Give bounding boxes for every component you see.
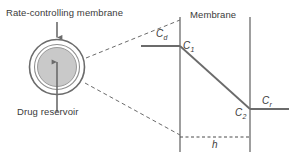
callout-line-lower	[85, 83, 180, 135]
label-drug-reservoir: Drug reservoir	[17, 107, 79, 117]
figure-canvas: Rate-controlling membrane Drug reservoir…	[0, 0, 296, 164]
label-membrane-thickness: h	[212, 140, 218, 150]
label-concentration-cr: Cr	[262, 96, 272, 106]
label-cr-symbol: C	[262, 95, 269, 106]
label-cr-subscript: r	[270, 101, 272, 108]
label-concentration-c2: C2	[235, 108, 246, 118]
label-c2-symbol: C	[235, 107, 242, 118]
label-concentration-c1: C1	[183, 41, 194, 51]
label-c1-subscript: 1	[191, 46, 195, 53]
label-c2-subscript: 2	[243, 113, 247, 120]
concentration-gradient-across-membrane	[180, 46, 250, 109]
label-rate-controlling-membrane: Rate-controlling membrane	[6, 8, 123, 18]
label-membrane: Membrane	[190, 10, 236, 20]
label-cd-subscript: d	[164, 34, 168, 41]
diagram-graphics	[0, 0, 296, 164]
label-concentration-cd: Cd	[156, 29, 167, 39]
label-cd-symbol: C	[156, 28, 163, 39]
label-c1-symbol: C	[183, 40, 190, 51]
